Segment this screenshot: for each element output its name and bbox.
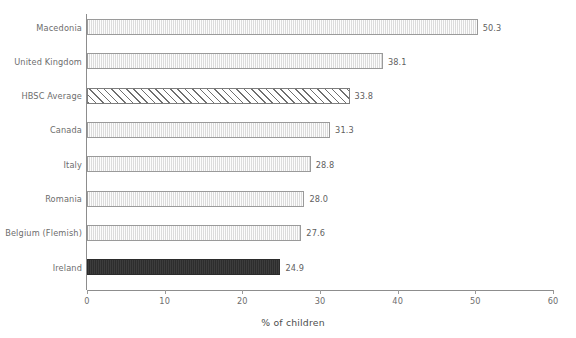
bar-value-label: 31.3 [335, 125, 354, 135]
x-tick-mark [398, 290, 399, 294]
bar-canada [87, 122, 330, 138]
x-tick-label: 20 [237, 296, 248, 306]
bar-romania [87, 191, 304, 207]
x-axis-title: % of children [0, 317, 576, 328]
bar-value-label: 50.3 [483, 23, 502, 33]
x-axis-title-label: % of children [261, 317, 325, 328]
bar-united-kingdom [87, 53, 383, 69]
x-tick-mark [165, 290, 166, 294]
bar-value-label: 33.8 [355, 91, 374, 101]
category-label: Italy [0, 160, 82, 170]
bar-value-label: 24.9 [285, 263, 304, 273]
x-tick-mark [87, 290, 88, 294]
category-label: HBSC Average [0, 91, 82, 101]
bar-ireland [87, 259, 280, 275]
bar-value-label: 28.8 [316, 160, 335, 170]
x-tick-mark [475, 290, 476, 294]
x-tick-label: 30 [315, 296, 326, 306]
bar-value-label: 28.0 [309, 194, 328, 204]
bar-macedonia [87, 19, 478, 35]
category-label: Macedonia [0, 23, 82, 33]
bar-hbsc-average [87, 88, 350, 104]
bar-value-label: 38.1 [388, 57, 407, 67]
x-tick-label: 60 [548, 296, 559, 306]
bar-belgium-flemish [87, 225, 301, 241]
category-label: Ireland [0, 263, 82, 273]
bar-chart: Macedonia50.3United Kingdom38.1HBSC Aver… [0, 0, 576, 338]
category-label: Canada [0, 125, 82, 135]
bar-italy [87, 156, 311, 172]
x-tick-mark [553, 290, 554, 294]
category-label: Romania [0, 194, 82, 204]
x-tick-label: 40 [392, 296, 403, 306]
x-tick-label: 0 [84, 296, 89, 306]
category-label: Belgium (Flemish) [0, 228, 82, 238]
x-tick-label: 10 [159, 296, 170, 306]
x-tick-mark [242, 290, 243, 294]
category-label: United Kingdom [0, 57, 82, 67]
bar-value-label: 27.6 [306, 228, 325, 238]
x-tick-mark [320, 290, 321, 294]
x-tick-label: 50 [470, 296, 481, 306]
